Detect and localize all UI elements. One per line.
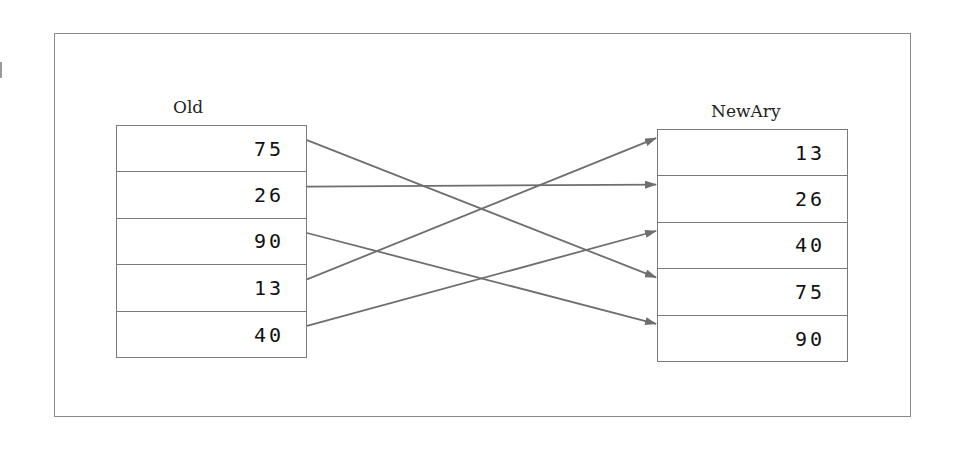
mapping-arrow bbox=[307, 138, 656, 279]
mapping-arrow bbox=[307, 231, 656, 326]
mapping-arrow bbox=[307, 185, 656, 187]
mapping-arrows bbox=[0, 0, 953, 451]
